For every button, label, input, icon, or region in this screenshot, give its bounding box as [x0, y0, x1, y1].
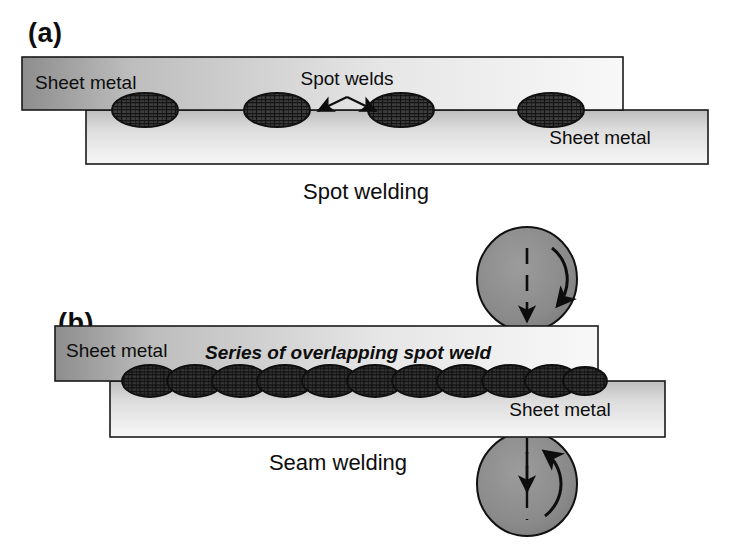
panel-b-caption: Seam welding: [269, 450, 407, 475]
panel-a-label: (a): [28, 18, 63, 48]
lower-sheet-label-a: Sheet metal: [549, 127, 650, 148]
spot-weld-nugget: [244, 93, 310, 127]
panel-a-caption: Spot welding: [303, 179, 429, 204]
seam-weld-nugget: [563, 367, 607, 395]
upper-sheet-label-a: Sheet metal: [35, 72, 136, 93]
seam-weld-callout-label: Series of overlapping spot weld: [205, 342, 492, 363]
spot-weld-nugget: [112, 93, 178, 127]
figure-canvas: (a) Sheet metal Sheet metal: [0, 0, 730, 549]
spot-weld-nugget: [368, 93, 434, 127]
spot-welds-callout-label: Spot welds: [301, 68, 394, 89]
lower-sheet-label-b: Sheet metal: [509, 399, 610, 420]
welding-figure: (a) Sheet metal Sheet metal: [0, 0, 730, 549]
seam-weld-nuggets: [122, 365, 607, 397]
spot-weld-nugget: [518, 93, 584, 127]
upper-sheet-label-b: Sheet metal: [66, 340, 167, 361]
